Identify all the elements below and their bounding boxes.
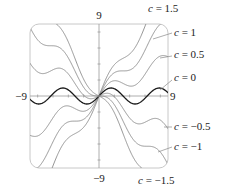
curve-label: c = 0	[174, 71, 197, 83]
chart: 9 −9 −9 9 c = 1.5c = 1c = 0.5c = 0c = −0…	[0, 0, 227, 190]
curve-label: c = 1	[174, 26, 196, 38]
leader-line	[160, 80, 172, 90]
curve-label: c = −0.5	[174, 120, 211, 132]
leader-line	[158, 147, 172, 152]
x-max-label: 9	[170, 90, 176, 102]
x-min-label: −9	[15, 90, 27, 102]
leader-line	[153, 33, 172, 39]
y-min-label: −9	[93, 172, 105, 184]
curve-label: c = −1.5	[138, 174, 175, 186]
curve-label: c = −1	[174, 140, 202, 152]
curve-label: c = 1.5	[148, 2, 179, 14]
curve-label: c = 0.5	[174, 48, 205, 60]
y-max-label: 9	[96, 9, 102, 21]
